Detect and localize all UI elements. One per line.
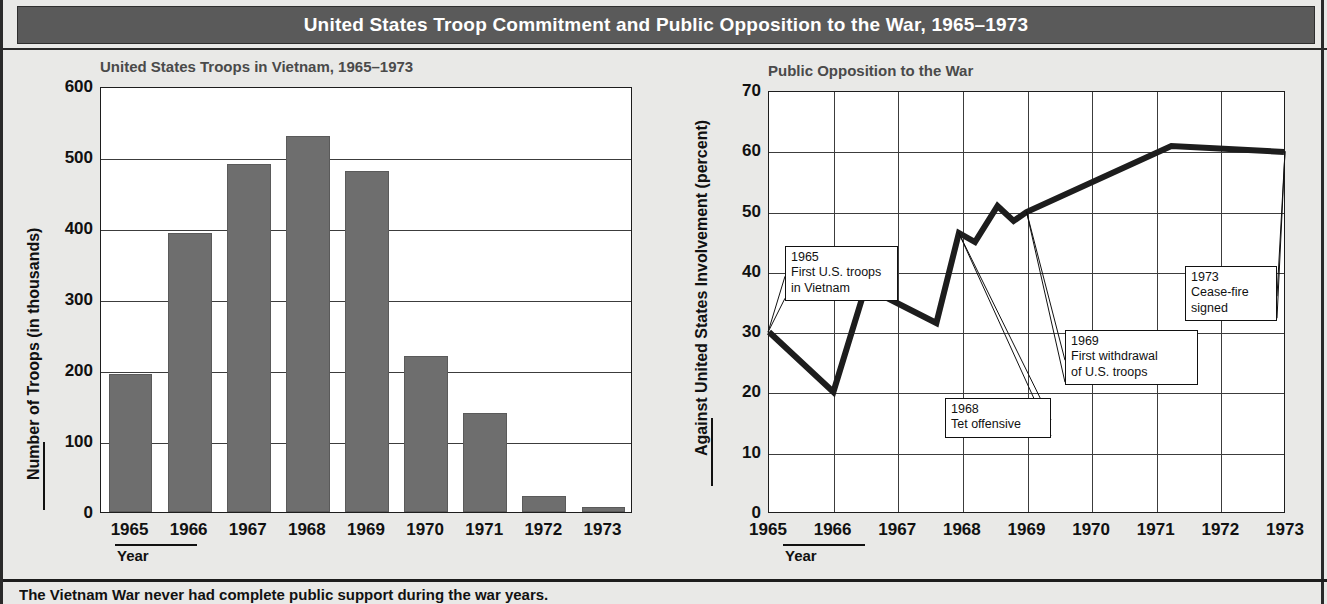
x-tick-label: 1970 bbox=[406, 520, 444, 540]
annotation-line: in Vietnam bbox=[791, 281, 892, 296]
bar-1973 bbox=[582, 507, 626, 512]
line-chart-x-axis-ticks: 196519661967196819691970197119721973 bbox=[768, 520, 1285, 542]
page-title: United States Troop Commitment and Publi… bbox=[304, 14, 1029, 36]
annotation-callout-1969: 1969First withdrawalof U.S. troops bbox=[1065, 330, 1198, 385]
bar-chart-y-axis-label: Number of Troops (in thousands) bbox=[25, 228, 43, 480]
annotation-line: 1969 bbox=[1071, 334, 1192, 349]
bar-1970 bbox=[404, 356, 448, 512]
x-tick-label: 1967 bbox=[229, 520, 267, 540]
caption-divider bbox=[3, 579, 1327, 582]
y-tick-label: 200 bbox=[65, 361, 93, 381]
y-tick-label: 0 bbox=[84, 503, 93, 523]
bar-chart-panel: United States Troops in Vietnam, 1965–19… bbox=[3, 50, 665, 568]
figure-caption: The Vietnam War never had complete publi… bbox=[19, 586, 1319, 603]
bar-1969 bbox=[345, 171, 389, 512]
annotation-callout-1965: 1965First U.S. troopsin Vietnam bbox=[785, 246, 898, 301]
x-tick-label: 1969 bbox=[1008, 520, 1046, 540]
y-tick-label: 70 bbox=[742, 81, 761, 101]
line-chart-title: Public Opposition to the War bbox=[768, 62, 973, 79]
x-tick-label: 1968 bbox=[943, 520, 981, 540]
y-tick-label: 50 bbox=[742, 202, 761, 222]
y-tick-label: 30 bbox=[742, 322, 761, 342]
bar-chart-plot-area bbox=[100, 87, 632, 513]
bar-1971 bbox=[463, 413, 507, 512]
line-chart-panel: Public Opposition to the War 1965First U… bbox=[665, 50, 1327, 568]
line-chart-y-axis-ticks: 010203040506070 bbox=[713, 91, 761, 513]
annotation-line: 1968 bbox=[951, 402, 1045, 417]
x-tick-label: 1968 bbox=[288, 520, 326, 540]
y-tick-label: 300 bbox=[65, 290, 93, 310]
annotation-line: of U.S. troops bbox=[1071, 365, 1192, 380]
bar-1972 bbox=[522, 496, 566, 512]
y-tick-label: 20 bbox=[742, 382, 761, 402]
x-tick-label: 1971 bbox=[1137, 520, 1175, 540]
x-tick-label: 1972 bbox=[524, 520, 562, 540]
x-tick-label: 1973 bbox=[1266, 520, 1304, 540]
bar-1965 bbox=[109, 374, 153, 512]
annotation-line: First U.S. troops bbox=[791, 265, 892, 280]
annotation-callout-1973: 1973Cease-firesigned bbox=[1185, 266, 1277, 321]
x-tick-label: 1966 bbox=[170, 520, 208, 540]
gridline bbox=[101, 159, 631, 160]
line-chart-y-axis-rule bbox=[711, 418, 713, 486]
x-tick-label: 1973 bbox=[584, 520, 622, 540]
annotation-line: Tet offensive bbox=[951, 417, 1045, 432]
bar-chart-x-axis-ticks: 196519661967196819691970197119721973 bbox=[100, 520, 632, 542]
x-tick-label: 1967 bbox=[878, 520, 916, 540]
y-tick-label: 500 bbox=[65, 148, 93, 168]
line-chart-y-axis-label: Against United States Involvement (perce… bbox=[693, 120, 711, 456]
annotation-line: Cease-fire bbox=[1191, 285, 1271, 300]
y-tick-label: 600 bbox=[65, 77, 93, 97]
annotation-line: signed bbox=[1191, 301, 1271, 316]
bar-1968 bbox=[286, 136, 330, 512]
x-tick-label: 1965 bbox=[749, 520, 787, 540]
x-tick-label: 1971 bbox=[465, 520, 503, 540]
y-tick-label: 60 bbox=[742, 141, 761, 161]
annotation-callout-1968: 1968Tet offensive bbox=[945, 398, 1051, 438]
y-tick-label: 100 bbox=[65, 432, 93, 452]
bar-1967 bbox=[227, 164, 271, 512]
x-tick-label: 1965 bbox=[111, 520, 149, 540]
bar-chart-x-axis-rule bbox=[115, 544, 197, 546]
y-tick-label: 400 bbox=[65, 219, 93, 239]
bar-chart-y-axis-rule bbox=[43, 442, 45, 510]
y-tick-label: 10 bbox=[742, 443, 761, 463]
annotation-line: 1965 bbox=[791, 250, 892, 265]
x-tick-label: 1966 bbox=[814, 520, 852, 540]
annotation-line: First withdrawal bbox=[1071, 349, 1192, 364]
bar-1966 bbox=[168, 233, 212, 512]
line-chart-x-axis-label: Year bbox=[785, 547, 817, 564]
bar-chart-y-axis-ticks: 0100200300400500600 bbox=[43, 87, 93, 513]
figure-title-band: United States Troop Commitment and Publi… bbox=[17, 6, 1315, 44]
x-tick-label: 1972 bbox=[1201, 520, 1239, 540]
line-chart-x-axis-rule bbox=[783, 544, 865, 546]
y-tick-label: 40 bbox=[742, 262, 761, 282]
annotation-line: 1973 bbox=[1191, 270, 1271, 285]
x-tick-label: 1969 bbox=[347, 520, 385, 540]
bar-chart-x-axis-label: Year bbox=[117, 547, 149, 564]
bar-chart-title: United States Troops in Vietnam, 1965–19… bbox=[100, 58, 413, 75]
x-tick-label: 1970 bbox=[1072, 520, 1110, 540]
